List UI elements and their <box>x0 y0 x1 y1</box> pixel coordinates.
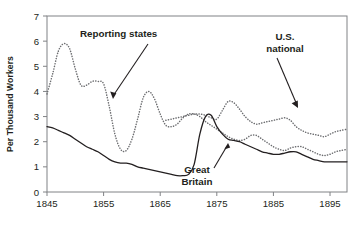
x-tick-label: 1895 <box>319 198 340 209</box>
x-tick-label: 1855 <box>93 198 114 209</box>
annotation-great-britain-label-line2: Britain <box>181 176 212 187</box>
annotation-us-national-label-line2: national <box>266 43 304 54</box>
y-tick-label: 7 <box>34 11 39 22</box>
y-axis-title: Per Thousand Workers <box>5 56 15 152</box>
y-tick-label: 3 <box>34 111 39 122</box>
y-tick-label: 1 <box>34 161 39 172</box>
y-tick-label: 0 <box>34 187 39 198</box>
y-axis: 01234567 <box>34 11 47 198</box>
chart-container: 01234567 184518551865187518851895 Per Th… <box>0 0 361 228</box>
x-tick-label: 1865 <box>150 198 171 209</box>
y-tick-label: 6 <box>34 36 39 47</box>
annotation-us-national-label-line1: U.S. <box>275 31 294 42</box>
annotation-great-britain-label-line1: Great <box>184 164 210 175</box>
line-chart: 01234567 184518551865187518851895 Per Th… <box>0 0 361 228</box>
annotation-reporting-states-label: Reporting states <box>80 28 158 39</box>
x-axis: 184518551865187518851895 <box>36 192 340 209</box>
x-tick-label: 1875 <box>206 198 227 209</box>
x-tick-label: 1885 <box>263 198 284 209</box>
y-tick-label: 5 <box>34 61 39 72</box>
y-tick-label: 4 <box>34 86 40 97</box>
x-tick-label: 1845 <box>36 198 57 209</box>
y-tick-label: 2 <box>34 136 39 147</box>
